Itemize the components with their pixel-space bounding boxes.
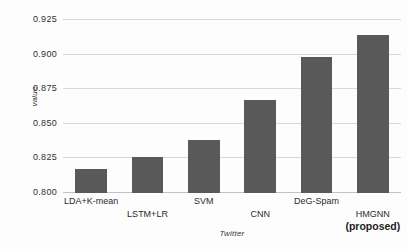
x-axis-title: Twitter: [63, 229, 401, 238]
bar: [75, 169, 107, 193]
x-tick-label: DeG-Spam: [294, 196, 339, 207]
bar: [188, 140, 220, 193]
bars-group: [63, 20, 401, 193]
x-tick-label: LDA+K-mean: [64, 196, 118, 207]
y-tick-label: 0.925: [33, 14, 57, 24]
plot-area: 0.8000.8250.8500.8750.9000.925: [63, 20, 401, 193]
y-tick-label: 0.825: [33, 152, 57, 162]
x-tick-label: CNN: [250, 209, 270, 220]
y-tick-label: 0.875: [33, 83, 57, 93]
y-tick-label: 0.800: [33, 187, 57, 197]
x-tick-label: LSTM+LR: [127, 209, 168, 220]
bar-chart-figure: value 0.8000.8250.8500.8750.9000.925 LDA…: [0, 0, 407, 249]
bar: [244, 100, 276, 193]
bar: [132, 157, 164, 193]
y-tick-label: 0.850: [33, 118, 57, 128]
x-tick-label: SVM: [194, 196, 214, 207]
y-tick-label: 0.900: [33, 49, 57, 59]
bar: [357, 35, 389, 193]
bar: [301, 57, 333, 193]
